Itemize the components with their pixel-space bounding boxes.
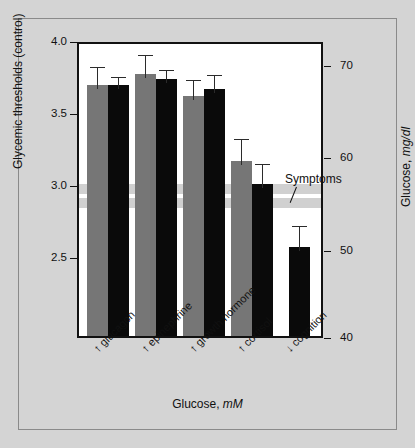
y2-tick-mark-50: [324, 251, 331, 252]
x-axis-label-unit: mM: [223, 397, 243, 411]
errorbar-cortisol-series-2: [262, 164, 263, 188]
errorbar-growth-hormone-series-1: [193, 80, 194, 100]
errorbar-epinephrine-series-2: [166, 70, 167, 83]
y-axis-right-label: Glucose, mg/dl: [399, 127, 413, 207]
y-tick-label-3-5: 3.5: [37, 108, 67, 120]
errorbar-epinephrine-series-1: [145, 55, 146, 78]
y2-tick-mark-40: [324, 338, 331, 339]
errorbar-cap-epinephrine-series-2: [159, 70, 174, 71]
y-axis-left-label: Glycemic thresholds (control): [11, 14, 25, 169]
errorbar-cap-growth-hormone-series-1: [186, 80, 201, 81]
bar-glucagon-series-1: [87, 85, 108, 336]
y-axis-right-label-unit: mg/dl: [399, 127, 413, 156]
errorbar-cap-cortisol-series-1: [234, 139, 249, 140]
y2-tick-mark-70: [324, 66, 331, 67]
y-tick-label-3-0: 3.0: [37, 180, 67, 192]
y-tick-label-2-5: 2.5: [37, 252, 67, 264]
x-axis-label: Glucose, mM: [19, 397, 396, 411]
y2-tick-mark-60: [324, 158, 331, 159]
bar-growth-hormone-series-2: [204, 89, 225, 336]
y-tick-mark-4-0: [70, 42, 77, 43]
bar-epinephrine-series-2: [156, 79, 177, 336]
errorbar-cortisol-series-1: [241, 139, 242, 165]
y-tick-mark-2-5: [70, 258, 77, 259]
figure-panel: Glycemic thresholds (control) Glucose, m…: [18, 18, 397, 430]
x-axis-label-text: Glucose,: [172, 397, 223, 411]
errorbar-cap-cognition-series-2: [292, 226, 307, 227]
y2-tick-label-70: 70: [340, 60, 370, 72]
y-tick-label-4-0: 4.0: [37, 36, 67, 48]
y2-tick-label-60: 60: [340, 152, 370, 164]
errorbar-glucagon-series-1: [97, 67, 98, 89]
bar-cortisol-series-2: [252, 184, 273, 336]
errorbar-cap-epinephrine-series-1: [138, 55, 153, 56]
symptoms-annotation-label: Symptoms: [285, 172, 342, 186]
errorbar-cap-cortisol-series-2: [255, 164, 270, 165]
y2-tick-label-50: 50: [340, 245, 370, 257]
errorbar-cap-growth-hormone-series-2: [207, 75, 222, 76]
errorbar-cap-glucagon-series-1: [90, 67, 105, 68]
bar-epinephrine-series-1: [135, 74, 156, 336]
bar-glucagon-series-2: [108, 85, 129, 336]
plot-area: [77, 42, 323, 338]
y-tick-mark-3-5: [70, 114, 77, 115]
errorbar-growth-hormone-series-2: [214, 75, 215, 93]
errorbar-glucagon-series-2: [118, 77, 119, 89]
y-tick-mark-3-0: [70, 186, 77, 187]
y-axis-right-label-text: Glucose,: [399, 156, 413, 207]
y2-tick-label-40: 40: [340, 332, 370, 344]
errorbar-cap-glucagon-series-2: [111, 77, 126, 78]
errorbar-cognition-series-2: [299, 226, 300, 251]
